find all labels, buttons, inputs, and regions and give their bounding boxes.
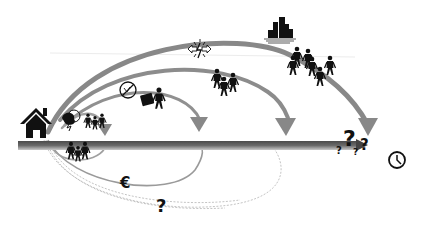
person-with-suitcase-icon bbox=[140, 88, 165, 109]
migration-diagram bbox=[0, 0, 424, 233]
city-icon bbox=[264, 17, 296, 43]
euro-label: € bbox=[120, 176, 130, 191]
uncertainty-question-small-1: ? bbox=[336, 146, 342, 156]
no-crops-icon bbox=[120, 82, 136, 98]
clock-icon bbox=[389, 152, 405, 168]
arc-arrowheads bbox=[97, 117, 378, 136]
uncertainty-question-small-2: ? bbox=[353, 148, 358, 157]
question-label-bottom: ? bbox=[156, 197, 166, 215]
uncertainty-question-small-3: ? bbox=[360, 138, 369, 153]
